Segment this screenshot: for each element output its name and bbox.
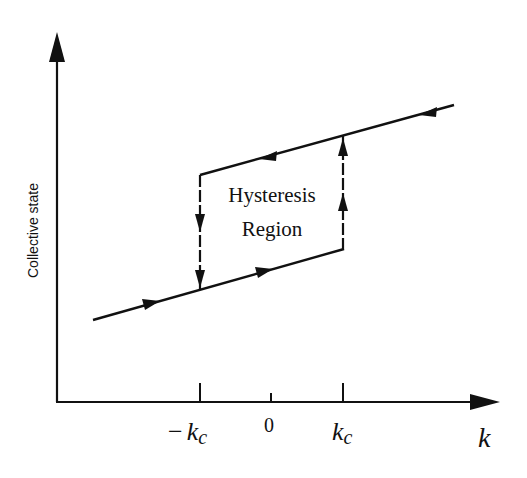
- jump-down-arrow-2: [195, 270, 205, 288]
- region-label-line2: Region: [242, 217, 303, 241]
- region-label-line1: Hysteresis: [228, 183, 316, 207]
- hysteresis-diagram: −kc 0 kc k Collective state Hysteresis R…: [0, 0, 527, 478]
- jump-up-arrow-2: [338, 138, 348, 156]
- tick-label-pos-kc: kc: [332, 417, 353, 448]
- upper-branch: [200, 105, 454, 175]
- x-axis-arrowhead: [470, 394, 500, 410]
- jump-down-arrow-1: [195, 214, 205, 232]
- y-axis-label: Collective state: [25, 183, 41, 278]
- jump-up-arrow-1: [338, 193, 348, 211]
- lower-branch: [93, 249, 344, 320]
- x-axis-label: k: [478, 422, 491, 453]
- upper-branch-arrow-2: [419, 107, 437, 117]
- tick-label-neg-kc: −kc: [168, 417, 207, 448]
- y-axis-arrowhead: [49, 32, 65, 62]
- upper-branch-arrow-1: [259, 151, 277, 161]
- tick-label-zero: 0: [264, 414, 274, 436]
